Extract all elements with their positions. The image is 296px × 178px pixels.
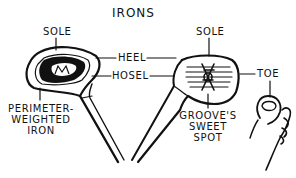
irons-diagram: IRONS SOLE SOLE HEEL HOSEL TOE PERIMETER… xyxy=(0,0,296,178)
perimeter-line-2: WEIGHTED xyxy=(4,114,78,125)
perimeter-line-1: PERIMETER- xyxy=(4,103,78,114)
grooves-sweet-spot-label: GROOVE'S SWEET SPOT xyxy=(176,110,240,143)
foot-drawing xyxy=(250,96,290,170)
perimeter-line-3: IRON xyxy=(4,125,78,136)
left-shaft xyxy=(80,96,118,162)
right-sole-label: SOLE xyxy=(196,26,225,37)
sweet-spot-line-3: SPOT xyxy=(176,132,240,143)
diagram-title: IRONS xyxy=(112,8,155,19)
m-logo-icon xyxy=(55,66,69,74)
heel-label: HEEL xyxy=(118,52,146,63)
sweet-spot-line-1: GROOVE'S xyxy=(176,110,240,121)
sweet-spot-line-2: SWEET xyxy=(176,121,240,132)
perimeter-cavity xyxy=(39,56,85,83)
toe-label: TOE xyxy=(257,68,279,79)
hosel-label: HOSEL xyxy=(112,70,149,81)
perimeter-weighted-iron-label: PERIMETER- WEIGHTED IRON xyxy=(4,103,78,136)
left-sole-label: SOLE xyxy=(43,26,72,37)
